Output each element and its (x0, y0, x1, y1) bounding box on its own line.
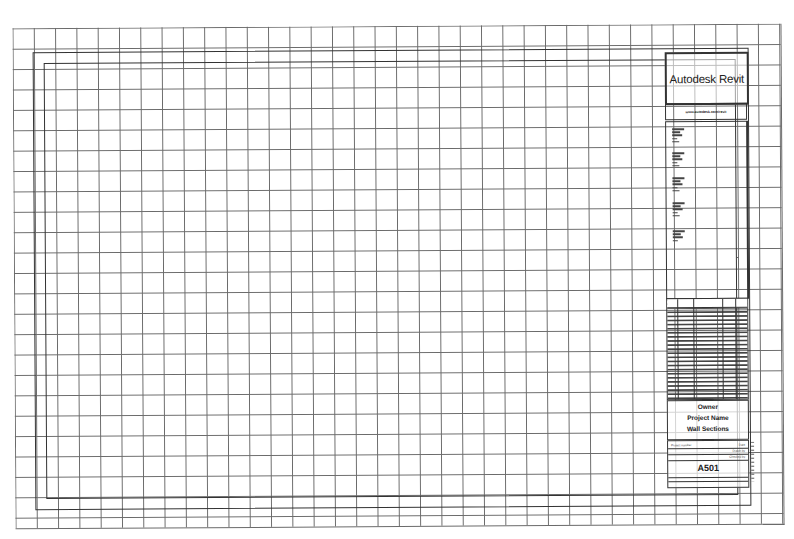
sheet-name-text: Wall Sections (668, 423, 748, 434)
note-placeholder (673, 202, 685, 218)
title-block-logo: Autodesk Revit (665, 52, 749, 106)
logo-subtext: www.autodesk.com/revit (686, 109, 727, 113)
project-info-block: Owner Project Name Wall Sections (667, 400, 749, 441)
info-row-divider (668, 481, 748, 483)
scale-ticks (751, 442, 754, 482)
revision-col-divider (693, 299, 695, 399)
revision-col-divider (677, 299, 679, 399)
info-row-divider (668, 477, 748, 479)
checked-by-label: Checked by (729, 455, 745, 459)
drawing-canvas[interactable]: Autodesk Revit www.autodesk.com/revit Ow… (0, 0, 794, 539)
owner-text: Owner (668, 401, 748, 412)
title-block-url: www.autodesk.com/revit (665, 103, 747, 121)
info-row-divider (668, 460, 748, 462)
logo-text: Autodesk Revit (670, 72, 745, 84)
project-name-text: Project Name (668, 412, 748, 423)
note-placeholder (672, 128, 684, 144)
sheet-info-block: Project number Date Drawn by Checked by … (667, 440, 749, 489)
sheet-number: A501 (668, 463, 748, 473)
note-placeholder (672, 152, 684, 168)
date-label: Date (739, 443, 745, 447)
revision-col-divider (722, 299, 724, 399)
note-placeholder (672, 177, 684, 193)
project-number-label: Project number (671, 443, 691, 447)
general-notes-area (665, 121, 749, 300)
note-placeholder (673, 230, 685, 243)
drawn-by-label: Drawn by (732, 449, 745, 453)
title-block[interactable]: Autodesk Revit www.autodesk.com/revit Ow… (665, 52, 750, 488)
revision-col-divider (735, 299, 737, 399)
sheet-inner-border (44, 59, 739, 499)
revision-schedule-table (666, 298, 749, 400)
